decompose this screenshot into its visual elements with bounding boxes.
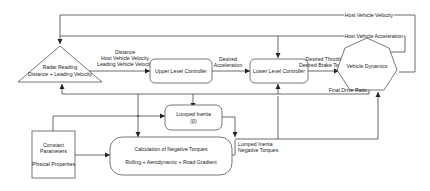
svg-text:Rolling + Aerodynamic + Road G: Rolling + Aerodynamic + Road Gradient (125, 159, 217, 165)
host-velocity-label: Host Vehicle Velocity (345, 12, 394, 18)
negative-torques-node: Calculation of Negative Torques Rolling … (110, 137, 232, 175)
svg-text:Acceleration: Acceleration (214, 62, 243, 68)
svg-text:Leading Vehicle Velocity: Leading Vehicle Velocity (97, 61, 153, 67)
svg-text:Final Drive Ratio: Final Drive Ratio (329, 87, 367, 93)
svg-text:Lumped Inertia: Lumped Inertia (176, 111, 211, 117)
constant-parameters-node: Constant Parameters Phisical Properties (32, 131, 75, 178)
vehicle-dynamics-node: Vehicle Dynamics (337, 38, 397, 90)
host-acceleration-label: Host Vehicle Acceleration (344, 33, 403, 39)
svg-text:Upper Level Controller: Upper Level Controller (155, 68, 207, 74)
edge-radar-to-upper: Distance Host Vehicle Velocity Leading V… (89, 49, 153, 71)
svg-text:Calculation of Negative Torque: Calculation of Negative Torques (134, 146, 208, 152)
radar-reading-node: Radar Reading Distance + Leading Velocit… (18, 46, 102, 82)
edge-upper-to-lower: Desired Acceleration (212, 56, 250, 71)
svg-text:Parameters: Parameters (40, 148, 67, 154)
svg-text:Phisical Properties: Phisical Properties (32, 161, 75, 167)
svg-text:Lower Level Controller: Lower Level Controller (253, 68, 305, 74)
edge-negative-torques: Lumped Inertia Negative Torques (222, 92, 378, 155)
radar-subtitle: Distance + Leading Velocity (28, 71, 92, 77)
svg-text:Vehicle Dynamics: Vehicle Dynamics (347, 63, 388, 69)
upper-level-controller: Upper Level Controller (150, 59, 212, 83)
lumped-inertia-node: Lumped Inertia (β) (165, 105, 222, 130)
svg-text:(β): (β) (190, 118, 197, 124)
radar-title: Radar Reading (43, 64, 78, 70)
control-diagram: Host Vehicle Velocity Host Vehicle Accel… (0, 0, 430, 191)
svg-text:Negative Torques: Negative Torques (238, 147, 279, 153)
